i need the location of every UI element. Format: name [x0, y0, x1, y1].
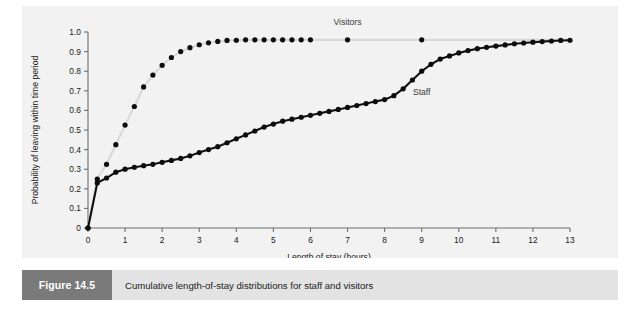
data-point-staff — [215, 144, 220, 149]
data-point-staff — [558, 38, 563, 43]
x-axis-tick-label: 2 — [160, 235, 165, 245]
data-point-staff — [447, 53, 452, 58]
data-point-visitors — [308, 37, 313, 42]
x-axis-tick-label: 5 — [271, 235, 276, 245]
data-point-staff — [410, 77, 415, 82]
data-point-staff — [169, 158, 174, 163]
y-axis-tick-label: 0 — [76, 223, 81, 233]
x-axis-tick-label: 13 — [565, 235, 575, 245]
data-point-staff — [289, 117, 294, 122]
x-axis-tick-label: 8 — [382, 235, 387, 245]
y-axis-tick-label: 0.2 — [69, 184, 81, 194]
data-point-staff — [317, 111, 322, 116]
y-axis-tick-label: 0.1 — [69, 203, 81, 213]
data-point-visitors — [345, 37, 350, 42]
data-point-staff — [271, 122, 276, 127]
series-label-staff: Staff — [413, 87, 431, 97]
data-point-staff — [484, 45, 489, 50]
data-point-staff — [382, 97, 387, 102]
data-point-staff — [122, 167, 127, 172]
data-point-staff — [391, 93, 396, 98]
data-point-staff — [85, 225, 90, 230]
data-point-staff — [243, 132, 248, 137]
y-axis-tick-label: 0.5 — [69, 125, 81, 135]
figure-caption-text: Cumulative length-of-stay distributions … — [112, 270, 618, 300]
data-point-staff — [549, 38, 554, 43]
y-axis-tick-label: 0.4 — [69, 145, 81, 155]
data-point-staff — [141, 163, 146, 168]
data-point-visitors — [141, 84, 146, 89]
y-axis-tick-label: 0.6 — [69, 105, 81, 115]
chart-canvas: 00.10.20.30.40.50.60.70.80.91.0012345678… — [22, 6, 618, 258]
data-point-staff — [465, 48, 470, 53]
data-point-visitors — [206, 40, 211, 45]
data-point-visitors — [215, 39, 220, 44]
x-axis-tick-label: 0 — [86, 235, 91, 245]
y-axis-tick-label: 0.3 — [69, 164, 81, 174]
data-point-staff — [475, 46, 480, 51]
figure-container: 00.10.20.30.40.50.60.70.80.91.0012345678… — [0, 0, 641, 313]
y-axis-tick-label: 0.9 — [69, 47, 81, 57]
data-point-visitors — [169, 55, 174, 60]
data-point-visitors — [187, 45, 192, 50]
data-point-staff — [178, 156, 183, 161]
data-point-staff — [456, 50, 461, 55]
data-point-staff — [160, 160, 165, 165]
data-point-visitors — [234, 38, 239, 43]
data-point-visitors — [150, 73, 155, 78]
data-point-visitors — [280, 37, 285, 42]
data-point-staff — [503, 42, 508, 47]
data-point-visitors — [178, 49, 183, 54]
y-axis-tick-label: 0.7 — [69, 86, 81, 96]
data-point-visitors — [289, 37, 294, 42]
data-point-visitors — [122, 123, 127, 128]
x-axis-tick-label: 3 — [197, 235, 202, 245]
data-point-visitors — [132, 104, 137, 109]
data-point-staff — [354, 103, 359, 108]
data-point-visitors — [243, 37, 248, 42]
data-point-staff — [197, 150, 202, 155]
figure-caption-bar: Figure 14.5 Cumulative length-of-stay di… — [22, 270, 618, 300]
y-axis-title: Probability of leaving within time perio… — [30, 56, 40, 205]
data-point-staff — [206, 147, 211, 152]
chart-panel: 00.10.20.30.40.50.60.70.80.91.0012345678… — [22, 6, 618, 258]
data-point-staff — [224, 140, 229, 145]
data-point-staff — [104, 175, 109, 180]
x-axis-tick-label: 12 — [528, 235, 538, 245]
data-point-staff — [438, 56, 443, 61]
data-point-staff — [363, 101, 368, 106]
series-label-visitors: Visitors — [334, 17, 362, 27]
data-point-staff — [234, 136, 239, 141]
data-point-visitors — [271, 37, 276, 42]
data-point-visitors — [252, 37, 257, 42]
data-point-staff — [299, 115, 304, 120]
data-point-visitors — [160, 63, 165, 68]
data-point-staff — [373, 99, 378, 104]
x-axis-title: Length of stay (hours) — [287, 252, 371, 258]
data-point-staff — [280, 119, 285, 124]
data-point-staff — [419, 69, 424, 74]
x-axis-tick-label: 1 — [123, 235, 128, 245]
data-point-staff — [150, 162, 155, 167]
x-axis-tick-label: 6 — [308, 235, 313, 245]
data-point-staff — [530, 40, 535, 45]
data-point-staff — [401, 86, 406, 91]
data-point-staff — [187, 153, 192, 158]
data-point-visitors — [419, 37, 424, 42]
data-point-staff — [345, 105, 350, 110]
data-point-staff — [428, 62, 433, 67]
data-point-visitors — [197, 42, 202, 47]
data-point-staff — [252, 128, 257, 133]
x-axis-tick-label: 11 — [491, 235, 500, 245]
figure-number-badge: Figure 14.5 — [22, 270, 112, 300]
data-point-staff — [308, 113, 313, 118]
data-point-staff — [540, 39, 545, 44]
y-axis-tick-label: 1.0 — [69, 27, 81, 37]
data-point-staff — [567, 38, 572, 43]
data-point-staff — [262, 124, 267, 129]
data-point-visitors — [104, 162, 109, 167]
data-point-staff — [521, 40, 526, 45]
y-axis-tick-label: 0.8 — [69, 66, 81, 76]
series-line-visitors — [88, 40, 570, 228]
data-point-staff — [95, 180, 100, 185]
